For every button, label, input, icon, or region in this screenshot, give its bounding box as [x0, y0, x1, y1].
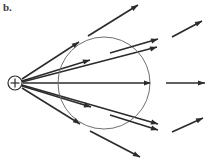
figure-panel-b: b. [0, 0, 205, 158]
field-line-diagram [0, 0, 205, 158]
arrowhead-up-mid [83, 58, 91, 65]
arrowhead-up-shallow [150, 45, 158, 52]
arrowhead-down-shallow [151, 119, 159, 126]
field-line-down-shallow [22, 85, 158, 124]
field-line-up-steep [22, 42, 79, 79]
field-line-down-mid [22, 86, 91, 107]
arrowhead-outer-up-mid [151, 37, 159, 44]
inner-field-lines [22, 42, 158, 124]
arrowhead-outer-up-shallow [195, 19, 204, 27]
outer-segment-up-steep [88, 5, 138, 36]
outer-field-line-segments [88, 5, 205, 157]
positive-point-charge [8, 76, 22, 90]
outer-segment-up-mid [110, 39, 158, 53]
outer-segment-down-steep [90, 131, 140, 157]
arrowhead-outer-down-shallow [196, 116, 205, 124]
arrowhead-outer-horizontal [198, 80, 205, 85]
field-line-up-mid [22, 60, 90, 81]
field-line-up-shallow [22, 47, 157, 82]
